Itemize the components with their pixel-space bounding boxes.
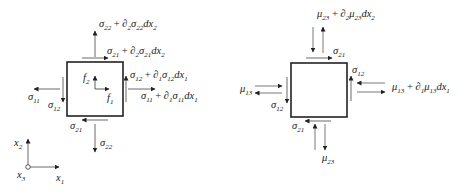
mu23-bottom-label: μ23 bbox=[321, 152, 335, 166]
f2-label: f2 bbox=[83, 72, 90, 86]
sigma21-top-label-right: σ21 bbox=[333, 45, 345, 59]
x3-axis-label: x3 bbox=[16, 169, 26, 183]
f1-label: f1 bbox=[107, 92, 113, 106]
mu23-top-label: μ23 + ∂2μ23dx2 bbox=[316, 8, 375, 22]
x2-axis-label: x2 bbox=[13, 137, 23, 151]
sigma11-right-label: σ11 + ∂1σ11dx1 bbox=[141, 90, 198, 104]
sigma22-top-label: σ22 + ∂2σ22dx2 bbox=[99, 18, 157, 32]
sigma21-top-label: σ21 + ∂2σ21dx2 bbox=[107, 45, 165, 59]
elasticity-diagram: σ22 + ∂2σ22dx2 σ21 + ∂2σ21dx2 σ12 + ∂1σ1… bbox=[0, 0, 462, 192]
left-element: σ22 + ∂2σ22dx2 σ21 + ∂2σ21dx2 σ12 + ∂1σ1… bbox=[28, 18, 198, 152]
sigma11-left-label: σ11 bbox=[28, 91, 40, 105]
sigma22-bottom-label: σ22 bbox=[100, 137, 113, 151]
coordinate-axes: x2 x3 x1 bbox=[13, 137, 64, 186]
right-element-box bbox=[291, 63, 347, 117]
sigma21-bottom-label: σ21 bbox=[70, 120, 82, 134]
sigma12-left-label-right: σ12 bbox=[271, 99, 284, 113]
x1-axis-label: x1 bbox=[55, 172, 64, 186]
sigma21-bottom-label-right: σ21 bbox=[292, 120, 304, 134]
mu13-right-label: μ13 + ∂1μ13dx1 bbox=[391, 81, 450, 95]
x3-axis-circle-icon bbox=[26, 165, 31, 170]
sigma12-right-label-right: σ12 bbox=[352, 64, 365, 78]
mu13-left-label: μ13 bbox=[239, 83, 253, 97]
sigma12-right-label: σ12 + ∂1σ12dx1 bbox=[130, 69, 188, 83]
sigma12-left-label: σ12 bbox=[48, 99, 61, 113]
right-element: μ23 + ∂2μ23dx2 σ21 σ12 μ13 + ∂1μ13dx1 μ1… bbox=[239, 8, 450, 166]
